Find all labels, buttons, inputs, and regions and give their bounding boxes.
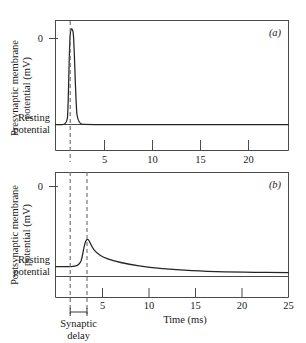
synaptic-delay-label-line1: Synaptic [60, 318, 97, 329]
panel-b-ylabel-line1: Postsynaptic membrane [9, 185, 20, 285]
panel-b-ytick-label-zero: 0 [38, 181, 43, 192]
panel-b-epsp-trace [56, 239, 289, 272]
panel-a: (a) 0 Resting potential 5 10 15 20 Presy… [9, 21, 289, 166]
panel-b-ylabel-line2: potential (mV) [21, 203, 33, 266]
panel-a-ytick-label-zero: 0 [38, 33, 43, 44]
panel-a-ylabel-line2: potential (mV) [21, 56, 33, 119]
panel-a-xtick-label-5: 5 [102, 154, 107, 165]
panel-a-xtick-label-15: 15 [195, 154, 206, 165]
panel-a-xtick-label-10: 10 [147, 154, 158, 165]
synaptic-delay-bracket [70, 308, 87, 316]
panel-b-plot-frame [56, 173, 289, 277]
panel-b-xtick-label-5: 5 [100, 300, 105, 311]
panel-b-xtick-label-10: 10 [144, 300, 155, 311]
panel-b-xtick-label-15: 15 [190, 300, 201, 311]
panel-a-presynaptic-trace [56, 29, 289, 125]
panel-b-xlabel: Time (ms) [163, 314, 207, 326]
panel-a-ylabel-line1: Presynaptic membrane [9, 40, 20, 136]
panel-b-label: (b) [269, 179, 282, 191]
panel-b-xtick-label-25: 25 [283, 300, 294, 311]
synaptic-transmission-figure: (a) 0 Resting potential 5 10 15 20 Presy… [0, 0, 306, 343]
panel-a-xtick-label-20: 20 [243, 154, 254, 165]
panel-a-plot-frame [56, 21, 289, 125]
synaptic-delay-label-line2: delay [67, 330, 90, 341]
panel-b: (b) 0 Resting potential 5 10 15 20 25 Ti… [9, 172, 294, 341]
panel-a-label: (a) [269, 27, 282, 39]
panel-b-xtick-label-20: 20 [237, 300, 248, 311]
